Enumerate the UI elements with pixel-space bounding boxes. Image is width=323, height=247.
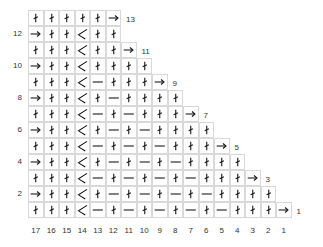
knit-stitch-icon [60,91,74,105]
decrease-icon [76,123,90,137]
chart-cell [137,186,153,202]
knit-stitch-icon [91,27,105,41]
knit-stitch-icon [60,203,74,217]
chart-cell [28,90,44,106]
chart-cell [137,202,153,218]
knit-stitch-icon [107,107,121,121]
purl-dash-icon [138,187,152,201]
column-label: 17 [28,226,44,235]
column-label: 16 [44,226,60,235]
decrease-icon [76,75,90,89]
stitch-chart: 1312111098765432117161514131211109876543… [0,0,323,247]
knit-stitch-icon [169,171,183,185]
chart-cell [59,122,75,138]
column-label: 4 [230,226,246,235]
decrease-icon [76,27,90,41]
knit-stitch-icon [107,43,121,57]
chart-cell [90,58,106,74]
chart-cell [121,74,137,90]
chart-cell [137,122,153,138]
chart-cell [90,138,106,154]
chart-cell [90,154,106,170]
chart-cell [44,138,60,154]
knit-stitch-icon [107,27,121,41]
chart-cell [152,170,168,186]
chart-cell [44,170,60,186]
chart-cell [28,170,44,186]
chart-cell [28,154,44,170]
knit-stitch-icon [169,203,183,217]
chart-cell [230,186,246,202]
chart-cell [90,122,106,138]
knit-stitch-icon [60,59,74,73]
knit-stitch-icon [91,59,105,73]
column-label: 1 [276,226,292,235]
knit-stitch-icon [169,91,183,105]
knit-stitch-icon [60,155,74,169]
chart-cell [59,26,75,42]
purl-dash-icon [107,91,121,105]
chart-cell [168,170,184,186]
chart-cell [199,170,215,186]
knit-stitch-icon [184,139,198,153]
knit-stitch-icon [169,107,183,121]
knit-stitch-icon [138,171,152,185]
chart-cell [230,202,246,218]
knit-stitch-icon [138,203,152,217]
knit-stitch-icon [138,59,152,73]
chart-cell [121,202,137,218]
knit-stitch-icon [29,43,43,57]
knit-stitch-icon [45,123,59,137]
column-label: 9 [152,226,168,235]
arrow-right-icon [29,27,43,41]
purl-dash-icon [153,171,167,185]
knit-stitch-icon [153,155,167,169]
row-label: 9 [173,79,177,88]
knit-stitch-icon [60,27,74,41]
chart-cell [75,10,91,26]
knit-stitch-icon [91,155,105,169]
purl-dash-icon [107,155,121,169]
knit-stitch-icon [45,107,59,121]
knit-stitch-icon [45,59,59,73]
chart-cell [44,106,60,122]
chart-cell [106,90,122,106]
chart-cell [214,170,230,186]
knit-stitch-icon [29,203,43,217]
purl-dash-icon [91,139,105,153]
chart-cell [75,26,91,42]
chart-cell [137,74,153,90]
chart-cell [121,106,137,122]
chart-cell [121,154,137,170]
knit-stitch-icon [91,43,105,57]
chart-cell [90,26,106,42]
chart-cell [106,106,122,122]
chart-cell [90,42,106,58]
knit-stitch-icon [45,187,59,201]
knit-stitch-icon [107,171,121,185]
chart-cell [75,122,91,138]
purl-dash-icon [169,155,183,169]
chart-cell [183,138,199,154]
purl-dash-icon [184,171,198,185]
chart-cell [106,138,122,154]
arrow-right-icon [153,75,167,89]
chart-cell [168,122,184,138]
chart-cell [183,170,199,186]
knit-stitch-icon [122,59,136,73]
purl-dash-icon [184,203,198,217]
arrow-right-icon [29,59,43,73]
purl-dash-icon [169,187,183,201]
purl-dash-icon [122,203,136,217]
chart-cell [137,90,153,106]
chart-cell [90,186,106,202]
arrow-right-icon [215,139,229,153]
knit-stitch-icon [231,171,245,185]
chart-cell [75,42,91,58]
knit-stitch-icon [45,203,59,217]
chart-cell [230,170,246,186]
chart-cell [59,106,75,122]
knit-stitch-icon [45,139,59,153]
chart-cell [137,138,153,154]
decrease-icon [76,187,90,201]
